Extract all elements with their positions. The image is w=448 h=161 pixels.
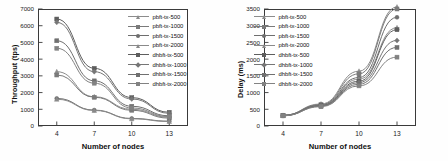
legend-line-swatch: [254, 74, 275, 75]
legend-marker-icon: [136, 15, 140, 19]
legend-item[interactable]: dhbft-tx-1000: [128, 60, 187, 69]
legend-item[interactable]: dhbft-tx-500: [254, 50, 309, 59]
legend-marker-icon: [136, 73, 140, 77]
legend-label: pbft-tx-1500: [153, 33, 184, 39]
legend-item[interactable]: pbft-tx-2000: [254, 41, 309, 50]
y-tick-label: 6000: [8, 22, 34, 29]
y-tick-label: 0: [234, 122, 260, 129]
legend-line-swatch: [128, 35, 149, 36]
legend-label: pbft-tx-500: [153, 14, 181, 20]
legend-marker-icon: [262, 44, 266, 48]
y-axis-label-throughput: Throughput (tps): [10, 45, 19, 104]
y-axis-label-delay: Delay (ms): [236, 61, 245, 98]
legend-label: pbft-tx-2000: [153, 42, 184, 48]
legend-label: pbft-tx-1500: [279, 33, 310, 39]
x-tick-label: 13: [158, 130, 180, 137]
legend-label: dhbft-tx-1000: [279, 62, 313, 68]
legend-delay[interactable]: pbft-tx-500pbft-tx-1000pbft-tx-1500pbft-…: [254, 12, 346, 90]
legend-label: dhbft-tx-2000: [153, 81, 187, 87]
y-tick-label: 0: [8, 122, 34, 129]
legend-item[interactable]: dhbft-tx-500: [128, 50, 183, 59]
legend-marker-icon: [262, 53, 266, 57]
legend-label: pbft-tx-2000: [279, 42, 310, 48]
legend-item[interactable]: dhbft-tx-2000: [128, 79, 187, 88]
legend-marker-icon: [136, 25, 140, 29]
legend-item[interactable]: pbft-tx-500: [254, 12, 306, 21]
x-axis-label-throughput: Number of nodes: [38, 142, 188, 151]
legend-item[interactable]: pbft-tx-2000: [128, 41, 183, 50]
legend-label: pbft-tx-500: [279, 14, 307, 20]
legend-item[interactable]: pbft-tx-1000: [254, 22, 309, 31]
legend-label: pbft-tx-1000: [153, 23, 184, 29]
legend-label: pbft-tx-1000: [279, 23, 310, 29]
legend-marker-icon: [262, 15, 266, 19]
legend-item[interactable]: dhbft-tx-2000: [254, 79, 313, 88]
x-tick-label: 4: [46, 130, 68, 137]
x-tick-label: 13: [386, 130, 408, 137]
legend-marker-icon: [136, 53, 140, 57]
legend-line-swatch: [254, 64, 275, 65]
legend-item[interactable]: dhbft-tx-1000: [254, 60, 313, 69]
legend-line-swatch: [254, 54, 275, 55]
x-tick-label: 4: [272, 130, 294, 137]
legend-line-swatch: [254, 35, 275, 36]
legend-line-swatch: [128, 64, 149, 65]
legend-item[interactable]: pbft-tx-1500: [128, 31, 183, 40]
chart-panel-delay: 0500100015002000250030003500 471013 Dela…: [224, 0, 448, 161]
x-axis-label-delay: Number of nodes: [264, 142, 416, 151]
legend-label: dhbft-tx-500: [279, 52, 310, 58]
legend-line-swatch: [254, 26, 275, 27]
legend-item[interactable]: pbft-tx-1500: [254, 31, 309, 40]
legend-item[interactable]: pbft-tx-1000: [128, 22, 183, 31]
legend-marker-icon: [136, 44, 140, 48]
legend-label: dhbft-tx-500: [153, 52, 184, 58]
legend-label: dhbft-tx-1000: [153, 62, 187, 68]
legend-label: dhbft-tx-1500: [279, 71, 313, 77]
legend-label: dhbft-tx-2000: [279, 81, 313, 87]
legend-item[interactable]: dhbft-tx-1500: [254, 70, 313, 79]
figure-root: 01000200030004000500060007000 471013 Thr…: [0, 0, 448, 161]
legend-line-swatch: [128, 74, 149, 75]
legend-marker-icon: [136, 34, 140, 38]
y-tick-label: 7000: [8, 5, 34, 12]
legend-line-swatch: [254, 83, 275, 84]
legend-line-swatch: [128, 54, 149, 55]
legend-line-swatch: [128, 16, 149, 17]
legend-line-swatch: [128, 83, 149, 84]
legend-line-swatch: [128, 45, 149, 46]
legend-item[interactable]: dhbft-tx-1500: [128, 70, 187, 79]
chart-panel-throughput: 01000200030004000500060007000 471013 Thr…: [0, 0, 224, 161]
legend-label: dhbft-tx-1500: [153, 71, 187, 77]
legend-line-swatch: [254, 45, 275, 46]
x-tick-label: 10: [348, 130, 370, 137]
legend-marker-icon: [262, 82, 266, 86]
legend-item[interactable]: pbft-tx-500: [128, 12, 180, 21]
legend-line-swatch: [254, 16, 275, 17]
legend-marker-icon: [262, 73, 266, 77]
legend-marker-icon: [262, 25, 266, 29]
y-tick-label: 1000: [8, 106, 34, 113]
x-tick-label: 7: [310, 130, 332, 137]
legend-marker-icon: [136, 82, 140, 86]
x-tick-label: 7: [83, 130, 105, 137]
legend-throughput[interactable]: pbft-tx-500pbft-tx-1000pbft-tx-1500pbft-…: [128, 12, 220, 90]
legend-marker-icon: [135, 62, 141, 68]
legend-marker-icon: [262, 34, 266, 38]
legend-marker-icon: [261, 62, 267, 68]
legend-line-swatch: [128, 26, 149, 27]
x-tick-label: 10: [121, 130, 143, 137]
y-tick-label: 500: [234, 106, 260, 113]
